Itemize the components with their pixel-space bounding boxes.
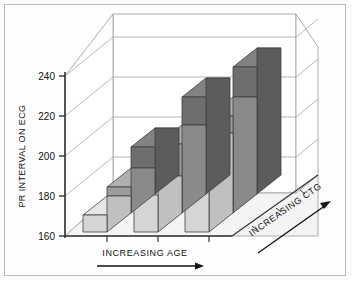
bar-chart-3d: 240 220 200 180 160 PR INTERVAL ON ECG (0, 0, 352, 282)
increasing-age-arrow-icon (97, 263, 204, 270)
x-axis: INCREASING AGE (65, 236, 232, 270)
x-axis-title: INCREASING AGE (102, 248, 187, 258)
right-wall (296, 14, 318, 193)
bar-side (206, 78, 230, 194)
figure-container: 240 220 200 180 160 PR INTERVAL ON ECG (0, 0, 352, 282)
y-axis-title: PR INTERVAL ON ECG (17, 104, 27, 207)
y-tick-label-220: 220 (38, 111, 55, 122)
y-tick-label-180: 180 (38, 191, 55, 202)
y-tick-label-200: 200 (38, 151, 55, 162)
y-tick-label-240: 240 (38, 71, 55, 82)
y-tick-label-160: 160 (38, 231, 55, 242)
bar-side (233, 97, 257, 213)
bar-face (83, 215, 107, 232)
bar-side (257, 48, 281, 194)
y-axis: 240 220 200 180 160 PR INTERVAL ON ECG (17, 71, 65, 242)
